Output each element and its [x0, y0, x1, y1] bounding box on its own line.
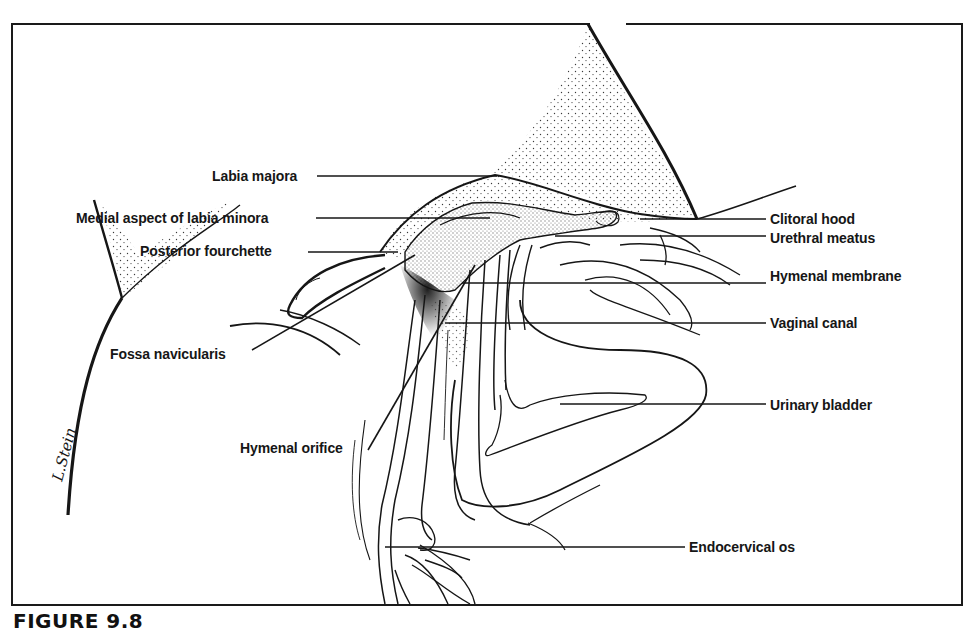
- label-endocervical-os: Endocervical os: [689, 539, 795, 555]
- fossa-region: [288, 255, 385, 318]
- label-hymenal-membrane: Hymenal membrane: [770, 268, 901, 284]
- label-urethral-meatus: Urethral meatus: [770, 230, 875, 246]
- buttock-outline: [68, 298, 122, 515]
- figure-caption: FIGURE 9.8: [13, 609, 143, 632]
- artist-signature: L.Stein: [36, 420, 76, 484]
- urethra: [508, 242, 590, 330]
- label-urinary-bladder: Urinary bladder: [770, 397, 872, 413]
- label-hymenal-orifice: Hymenal orifice: [240, 440, 343, 456]
- label-fossa-navicularis: Fossa navicularis: [110, 346, 226, 362]
- label-clitoral-hood: Clitoral hood: [770, 211, 855, 227]
- label-labia-majora: Labia majora: [212, 168, 297, 184]
- frame-notch: [590, 22, 626, 27]
- label-posterior-fourchette: Posterior fourchette: [140, 243, 272, 259]
- cervix-region: [395, 518, 475, 604]
- svg-text:L.Stein: L.Stein: [48, 426, 76, 484]
- leader-fossa-navicularis: [252, 255, 415, 350]
- label-medial-labia-minora: Medial aspect of labia minora: [76, 210, 268, 226]
- label-vaginal-canal: Vaginal canal: [770, 315, 857, 331]
- bladder-inner-fold: [486, 380, 647, 456]
